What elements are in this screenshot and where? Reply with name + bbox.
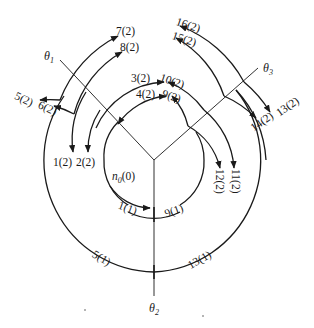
node-13-1: 13(1): [186, 248, 214, 272]
node-6-2: 6(2): [36, 98, 59, 118]
node-11-2: 11(2): [229, 169, 242, 194]
node-13-2: 13(2): [274, 94, 302, 119]
node-2-2: 2(2): [76, 156, 95, 169]
node-10-2: 10(2): [158, 71, 186, 91]
axis-theta1-label: θ1: [44, 49, 54, 65]
axis-theta3-label: θ3: [263, 61, 273, 77]
node-9-2: 9(2): [160, 87, 182, 105]
node-5-1: 5(1): [90, 248, 113, 269]
origin-node-label: n0(0): [112, 170, 135, 185]
arc-to-2-2: [88, 110, 100, 152]
arc-inner-circle-left: [104, 160, 128, 205]
level1-outer-arcs: [44, 90, 261, 279]
level2-right-arcs: [168, 26, 270, 168]
scan-speck: [84, 309, 86, 311]
node-12-2: 12(2): [213, 169, 226, 194]
node-1-2: 1(2): [53, 156, 72, 169]
angular-state-diagram: θ1 θ3 θ2: [0, 0, 314, 328]
node-4-2: 4(2): [136, 88, 155, 101]
node-7-2: 7(2): [116, 25, 135, 38]
node-3-2: 3(2): [131, 72, 150, 85]
scan-speck: [202, 315, 204, 317]
node-5-2: 5(2): [12, 89, 35, 109]
arc-inner-circle-right: [180, 132, 204, 205]
arc-13-1: [154, 90, 261, 272]
axis-theta2-label: θ2: [149, 301, 159, 317]
axes: [60, 60, 258, 296]
arc-to-4-2: [118, 96, 166, 124]
arc-to-11-2: [204, 110, 234, 168]
node-8-2: 8(2): [120, 41, 139, 54]
